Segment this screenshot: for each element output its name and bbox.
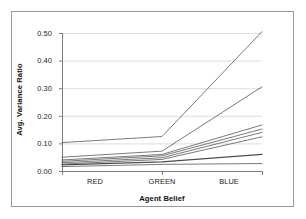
- y-axis-title: Avg. Variance Ratio: [15, 45, 24, 155]
- data-series-group: [62, 32, 262, 167]
- figure-container: 0.50 0.40 0.30 0.20 0.10 0.00 RED GREEN …: [0, 0, 306, 219]
- series-line-1: [62, 32, 262, 143]
- y-tick-label-0: 0.50: [22, 29, 52, 38]
- y-tick-label-1: 0.40: [22, 56, 52, 65]
- x-tick-label-blue: BLUE: [199, 177, 259, 186]
- x-tick-label-green: GREEN: [132, 177, 192, 186]
- series-line-3: [62, 125, 262, 160]
- y-tick-label-3: 0.20: [22, 112, 52, 121]
- y-tick-label-5: 0.00: [22, 167, 52, 176]
- y-tick-label-2: 0.30: [22, 84, 52, 93]
- x-axis-title: Agent Belief: [62, 194, 262, 203]
- y-tick-label-4: 0.10: [22, 139, 52, 148]
- x-tick-label-red: RED: [65, 177, 125, 186]
- series-line-2: [62, 87, 262, 157]
